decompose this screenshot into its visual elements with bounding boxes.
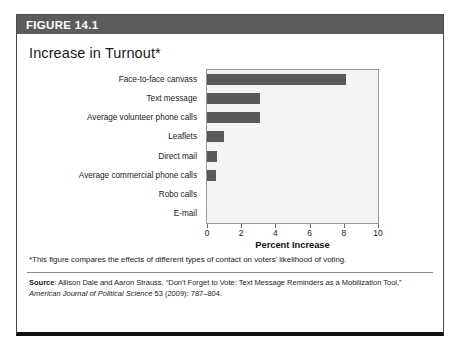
bar-row: [207, 185, 378, 204]
figure-box: FIGURE 14.1 Increase in Turnout* Face-to…: [16, 14, 444, 336]
tick-label: 2: [239, 228, 244, 238]
bar-row: [207, 127, 378, 146]
source-label: Source: [29, 278, 54, 287]
bar-row: [207, 204, 378, 223]
source-text-part1: Allison Dale and Aaron Strauss, “Don't F…: [58, 278, 401, 287]
bar-row: [207, 166, 378, 185]
bars-layer: [207, 70, 378, 223]
category-label: Leaflets: [17, 127, 202, 146]
x-axis-title: Percent Increase: [206, 240, 379, 250]
tick-label: 6: [307, 228, 312, 238]
category-label: Average volunteer phone calls: [17, 108, 202, 127]
tick-label: 8: [341, 228, 346, 238]
figure-title: Increase in Turnout*: [17, 34, 443, 61]
category-label: Robo calls: [17, 185, 202, 204]
category-label: Direct mail: [17, 147, 202, 166]
category-label: E-mail: [17, 204, 202, 223]
bar: [207, 93, 260, 104]
bar: [207, 151, 217, 162]
category-axis-labels: Face-to-face canvassText messageAverage …: [17, 70, 202, 223]
bar: [207, 112, 260, 123]
bar: [207, 74, 346, 85]
bar-row: [207, 147, 378, 166]
source-journal: American Journal of Political Science: [29, 289, 152, 298]
bar-row: [207, 108, 378, 127]
category-label: Average commercial phone calls: [17, 166, 202, 185]
figure-header-bar: FIGURE 14.1: [17, 15, 443, 34]
bar-row: [207, 70, 378, 89]
figure-number-label: FIGURE 14.1: [26, 19, 98, 31]
figure-footnote: *This figure compares the effects of dif…: [17, 255, 443, 265]
bar-row: [207, 89, 378, 108]
tick-label: 0: [205, 228, 210, 238]
category-label: Text message: [17, 89, 202, 108]
source-text-part2: 53 (2009): 787–804.: [152, 289, 222, 298]
bar: [207, 131, 224, 142]
category-label: Face-to-face canvass: [17, 70, 202, 89]
tick-label: 10: [373, 228, 382, 238]
bar: [207, 170, 216, 181]
tick-label: 4: [273, 228, 278, 238]
chart-area: Face-to-face canvassText messageAverage …: [17, 61, 445, 253]
figure-source: Source: Allison Dale and Aaron Strauss, …: [17, 273, 443, 300]
